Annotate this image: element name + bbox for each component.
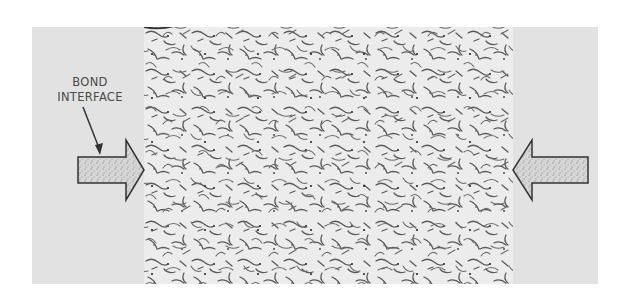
leader-arrow-icon [83, 107, 103, 155]
right-pointing-arrow-icon [78, 140, 144, 200]
annotation-layer [0, 0, 624, 295]
left-pointing-arrow-icon [513, 140, 588, 200]
